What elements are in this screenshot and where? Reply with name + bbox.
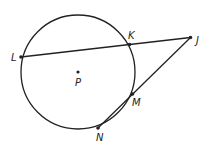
label-j: J: [194, 35, 199, 46]
label-l: L: [11, 52, 17, 63]
label-m: M: [132, 97, 141, 108]
point-k: [128, 43, 132, 47]
label-n: N: [96, 132, 104, 143]
label-k: K: [128, 30, 136, 41]
secant-nj: [98, 38, 191, 129]
label-p: P: [75, 77, 82, 88]
point-l: [19, 55, 23, 59]
point-n: [96, 126, 100, 130]
geometry-diagram: L K J M N P: [0, 0, 210, 148]
secant-lj: [21, 38, 191, 58]
point-m: [131, 92, 135, 96]
point-j: [189, 36, 193, 40]
point-p: [76, 70, 79, 73]
